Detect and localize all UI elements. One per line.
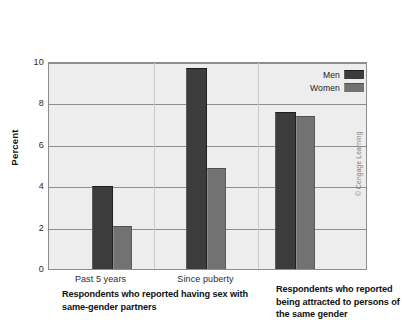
x-tick-past-5-years: Past 5 years (48, 274, 153, 284)
gridline-10 (49, 63, 366, 64)
legend-label-men: Men (323, 70, 340, 80)
y-tick-8: 8 (10, 98, 44, 108)
gridline-8 (49, 104, 366, 105)
legend-label-women: Women (310, 83, 340, 93)
plot-area: Men Women (48, 62, 367, 270)
legend-swatch-women (344, 83, 364, 92)
legend-item-women: Women (300, 81, 364, 94)
caption-having-sex: Respondents who reported having sex with… (62, 288, 262, 313)
bar-past-5-years-men (92, 186, 113, 269)
legend: Men Women (300, 67, 364, 96)
gridline-6 (49, 146, 366, 147)
caption-attracted-to: Respondents who reported being attracted… (276, 283, 402, 321)
bar-attracted-men (275, 112, 296, 269)
bar-since-puberty-men (186, 68, 207, 269)
bar-attracted-women (296, 116, 315, 269)
y-axis-label: Percent (9, 118, 20, 178)
y-tick-0: 0 (10, 264, 44, 274)
legend-swatch-men (344, 70, 364, 79)
bar-since-puberty-women (207, 168, 226, 269)
bar-past-5-years-women (113, 226, 132, 270)
y-tick-4: 4 (10, 181, 44, 191)
y-tick-10: 10 (10, 57, 44, 67)
x-tick-since-puberty: Since puberty (153, 274, 258, 284)
copyright-credit: © Cengage Learning (355, 106, 362, 196)
group-separator-1 (154, 63, 155, 269)
y-tick-2: 2 (10, 223, 44, 233)
group-separator-2 (258, 63, 259, 269)
legend-item-men: Men (300, 68, 364, 81)
